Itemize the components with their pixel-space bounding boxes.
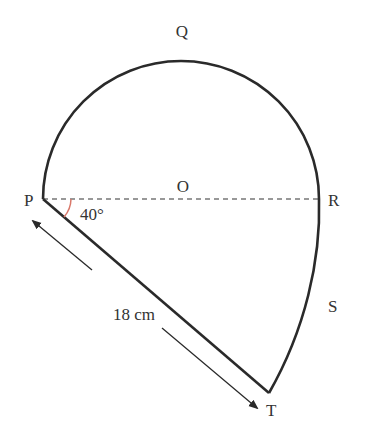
line-pt [43, 199, 269, 393]
angle-label: 40° [80, 205, 104, 224]
length-label: 18 cm [113, 305, 155, 324]
label-t: T [266, 401, 277, 420]
label-o: O [177, 177, 189, 196]
dimension-arrow-lower [162, 328, 257, 408]
sector-diagram: Q P O R S T 40° 18 cm [0, 0, 372, 430]
label-r: R [328, 191, 340, 210]
label-s: S [328, 297, 337, 316]
angle-arc [64, 199, 71, 217]
dimension-arrow-upper [33, 221, 92, 270]
label-q: Q [176, 22, 188, 41]
label-p: P [24, 191, 33, 210]
arc-rst [269, 199, 319, 393]
